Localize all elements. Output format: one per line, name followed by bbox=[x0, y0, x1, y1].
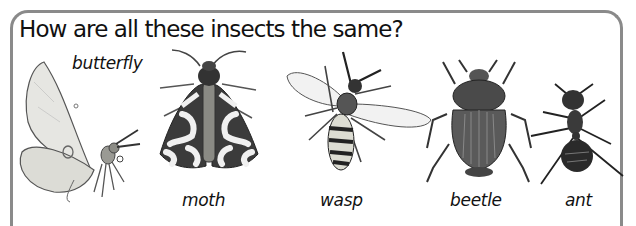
ant-label: ant bbox=[565, 190, 592, 210]
butterfly-label: butterfly bbox=[72, 53, 142, 73]
butterfly-illustration bbox=[14, 52, 144, 202]
question-heading: How are all these insects the same? bbox=[19, 16, 403, 42]
ant-illustration bbox=[527, 80, 627, 190]
moth-label: moth bbox=[182, 190, 225, 210]
wasp-label: wasp bbox=[320, 190, 363, 210]
wasp-illustration bbox=[285, 44, 435, 184]
beetle-label: beetle bbox=[450, 190, 502, 210]
beetle-illustration bbox=[425, 58, 535, 188]
moth-illustration bbox=[152, 44, 272, 184]
